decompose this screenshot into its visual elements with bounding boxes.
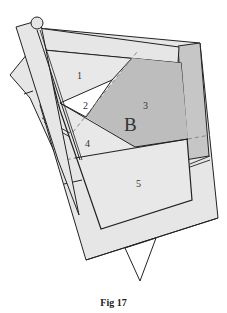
figure-caption: Fig 17: [0, 297, 227, 308]
origami-diagram: 1 2 3 4 5 B: [0, 0, 227, 313]
region-label-1: 1: [77, 70, 82, 81]
region-label-3: 3: [143, 100, 148, 111]
region-label-2: 2: [83, 100, 88, 111]
region-label-5: 5: [136, 178, 141, 189]
region-letter-b: B: [124, 114, 137, 135]
region-label-4: 4: [85, 138, 90, 149]
pin-head-circle: [31, 17, 43, 29]
